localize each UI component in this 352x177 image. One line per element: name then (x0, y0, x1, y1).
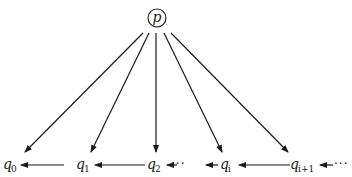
node-qi1: q i+1 (290, 156, 314, 174)
node-q0-sub: 0 (11, 164, 17, 174)
node-q0: q 0 (3, 156, 17, 174)
node-qi1-sub: i+1 (298, 164, 314, 174)
root-node-p: p (148, 9, 166, 27)
ellipsis-after-qi1: ··· (334, 157, 348, 171)
edge-p-qi (164, 33, 222, 152)
edge-p-q1 (91, 33, 149, 152)
edge-p-q0 (25, 33, 143, 152)
diagram-canvas: p q 0 q 1 q 2 q i q i+1 ··· ··· (0, 0, 352, 177)
node-q1-sub: 1 (84, 164, 90, 174)
ellipsis-between-q2-qi: ··· (171, 157, 185, 171)
node-qi: q i (220, 156, 231, 174)
root-label: p (153, 9, 162, 25)
edge-p-qi1 (171, 33, 288, 152)
node-q1: q 1 (76, 156, 90, 174)
node-qi-sub: i (228, 164, 231, 174)
node-q2-sub: 2 (155, 164, 161, 174)
node-q2: q 2 (147, 156, 161, 174)
root-edges (25, 33, 288, 152)
